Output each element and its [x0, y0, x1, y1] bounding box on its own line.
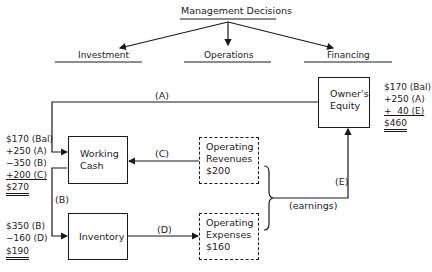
revenues-amount: $200	[206, 165, 230, 178]
owners-equity-box: Owner's Equity	[318, 77, 370, 128]
owners-equity-label-1: Owner's	[330, 88, 369, 101]
flow-label-a: (A)	[155, 90, 169, 102]
expenses-label-2: Expenses	[206, 229, 251, 242]
operating-revenues-box: Operating Revenues $200	[199, 137, 259, 184]
flow-label-d: (D)	[157, 224, 172, 236]
flow-label-b: (B)	[55, 194, 69, 206]
working-cash-label-2: Cash	[80, 160, 103, 173]
inventory-label: Inventory	[79, 231, 124, 244]
revenues-label-2: Revenues	[206, 153, 252, 166]
expenses-label-1: Operating	[206, 217, 254, 230]
cash-total: $270	[6, 182, 29, 196]
arrow-to-financing	[228, 22, 333, 48]
flow-label-e: (E)	[335, 176, 348, 188]
cash-ledger-4: +200 (C)	[6, 170, 47, 182]
owners-equity-label-2: Equity	[330, 100, 360, 113]
working-cash-box: Working Cash	[68, 136, 128, 184]
equity-ledger-1: $170 (Bal)	[384, 82, 431, 94]
cash-ledger-2: +250 (A)	[6, 146, 47, 158]
flow-label-c: (C)	[155, 148, 169, 160]
category-investment: Investment	[78, 50, 129, 62]
category-operations: Operations	[204, 50, 253, 62]
inventory-ledger-1: $350 (B)	[6, 221, 45, 233]
earnings-brace	[264, 166, 273, 230]
inventory-box: Inventory	[68, 213, 128, 260]
cash-ledger-1: $170 (Bal)	[6, 134, 53, 146]
earnings-label: (earnings)	[289, 200, 337, 212]
equity-ledger-3: + 40 (E)	[384, 106, 424, 118]
arrow-to-investment	[120, 22, 228, 48]
revenues-label-1: Operating	[206, 141, 254, 154]
working-cash-label-1: Working	[80, 148, 119, 161]
category-financing: Financing	[327, 50, 370, 62]
equity-total: $460	[384, 118, 407, 132]
inventory-total: $190	[6, 246, 29, 260]
equity-ledger-2: +250 (A)	[384, 94, 425, 106]
expenses-amount: $160	[206, 241, 230, 254]
cash-ledger-3: −350 (B)	[6, 158, 47, 170]
page-title: Management Decisions	[181, 5, 292, 17]
operating-expenses-box: Operating Expenses $160	[199, 213, 259, 260]
inventory-ledger-2: −160 (D)	[6, 233, 48, 245]
